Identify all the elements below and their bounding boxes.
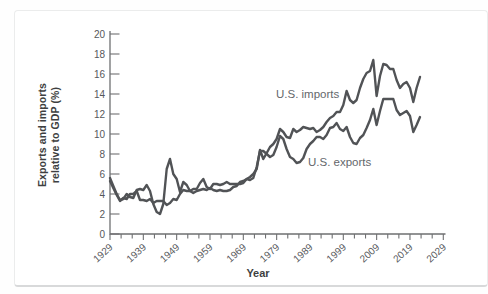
y-axis-title-line1: Exports and imports	[36, 60, 49, 210]
exports-series-label: U.S. exports	[308, 156, 371, 168]
y-tick-label: 18	[94, 49, 106, 60]
y-axis-title-line2: relative to GDP (%)	[49, 60, 62, 210]
x-tick-label: 1929	[91, 241, 115, 264]
x-tick-label: 2009	[358, 241, 382, 264]
y-tick-label: 8	[99, 149, 105, 160]
y-tick-label: 16	[94, 69, 106, 80]
x-tick-label: 1969	[224, 241, 248, 264]
x-tick-label: 1949	[158, 241, 182, 264]
x-tick-label: 2029	[424, 241, 448, 264]
y-tick-label: 4	[99, 189, 105, 200]
imports-line	[110, 60, 420, 205]
y-tick-label: 10	[94, 129, 106, 140]
x-tick-label: 1959	[191, 241, 215, 264]
y-tick-label: 2	[99, 209, 105, 220]
x-tick-label: 1999	[324, 241, 348, 264]
imports-series-label: U.S. imports	[276, 88, 339, 100]
y-axis-title: Exports and imports relative to GDP (%)	[36, 60, 64, 210]
x-tick-label: 2019	[391, 241, 415, 264]
x-axis-title: Year	[208, 267, 308, 279]
y-tick-label: 14	[94, 89, 106, 100]
y-tick-label: 6	[99, 169, 105, 180]
x-tick-label: 1979	[258, 241, 282, 264]
x-tick-label: 1939	[124, 241, 148, 264]
x-tick-label: 1989	[291, 241, 315, 264]
y-tick-label: 20	[94, 29, 106, 40]
y-tick-label: 12	[94, 109, 106, 120]
y-tick-label: 0	[99, 229, 105, 240]
